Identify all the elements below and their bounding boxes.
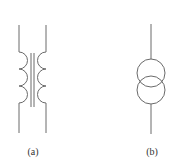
transformer-circle-symbol: [137, 24, 165, 134]
lower-winding-circle: [137, 76, 165, 104]
diagram-canvas: [0, 0, 179, 164]
upper-winding-circle: [137, 59, 165, 87]
primary-winding: [19, 25, 28, 133]
panel-b-label: (b): [146, 146, 158, 158]
transformer-coil-symbol: [19, 25, 46, 133]
secondary-winding: [38, 25, 47, 133]
panel-a-label: (a): [27, 146, 38, 158]
